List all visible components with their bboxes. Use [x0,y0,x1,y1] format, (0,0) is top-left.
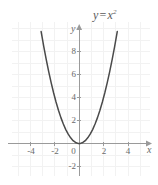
plot-canvas [0,0,158,185]
y-axis-label: y [71,24,75,34]
title-lhs: y [93,8,99,22]
origin-label: 0 [69,147,78,156]
chart-title: y=x2 [93,8,117,23]
y-axis-arrow-icon [76,24,82,30]
y-tick-label-8: 8 [64,47,76,56]
y-tick-label-4: 4 [64,93,76,102]
x-axis-label: x [147,145,151,155]
parabola-figure: y=x2 x y -4 -2 0 2 4 8 6 4 2 -2 [0,0,158,185]
x-tick-label--4: -4 [24,147,38,156]
y-tick-label--2: -2 [59,162,76,171]
x-tick-label-4: 4 [122,147,134,156]
x-tick-label--2: -2 [48,147,62,156]
x-tick-label-2: 2 [98,147,110,156]
y-tick-label-6: 6 [64,70,76,79]
title-exponent: 2 [113,8,117,16]
y-tick-label-2: 2 [64,116,76,125]
title-operator: = [99,8,108,22]
